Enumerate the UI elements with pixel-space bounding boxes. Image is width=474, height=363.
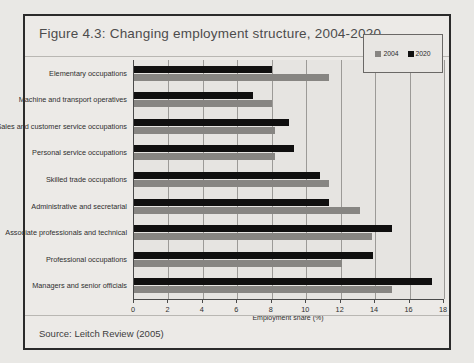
bar-2020 bbox=[134, 66, 272, 73]
x-tick-label: 6 bbox=[234, 305, 238, 314]
category-label: Associate professionals and technical bbox=[0, 219, 131, 246]
x-tick bbox=[202, 299, 203, 303]
category-label: Administrative and secretarial bbox=[0, 193, 131, 220]
category-label: Skilled trade occupations bbox=[0, 166, 131, 193]
page-background: Figure 4.3: Changing employment structur… bbox=[0, 0, 474, 363]
bar-group bbox=[134, 166, 444, 193]
x-tick-label: 12 bbox=[336, 305, 344, 314]
x-tick bbox=[374, 299, 375, 303]
figure-frame: Figure 4.3: Changing employment structur… bbox=[23, 14, 451, 350]
x-tick bbox=[443, 299, 444, 303]
bar-2004 bbox=[134, 74, 329, 81]
legend-label: 2020 bbox=[416, 50, 431, 57]
category-label: Sales and customer service occupations bbox=[0, 113, 131, 140]
bar-2004 bbox=[134, 207, 360, 214]
plot-area bbox=[133, 60, 444, 299]
bar-group bbox=[134, 246, 444, 273]
x-tick-label: 0 bbox=[131, 305, 135, 314]
legend-label: 2004 bbox=[383, 50, 398, 57]
category-label: Managers and senior officials bbox=[0, 272, 131, 299]
x-tick-label: 18 bbox=[439, 305, 447, 314]
bar-2004 bbox=[134, 260, 342, 267]
bar-2020 bbox=[134, 92, 253, 99]
bar-2020 bbox=[134, 278, 432, 285]
bar-2004 bbox=[134, 127, 275, 134]
bar-group bbox=[134, 113, 444, 140]
x-axis bbox=[133, 299, 443, 300]
figure-title: Figure 4.3: Changing employment structur… bbox=[39, 26, 381, 41]
source-divider bbox=[25, 315, 449, 316]
category-label: Personal service occupations bbox=[0, 140, 131, 167]
x-tick bbox=[133, 299, 134, 303]
category-label: Professional occupations bbox=[0, 246, 131, 273]
x-tick-label: 10 bbox=[301, 305, 309, 314]
bar-2020 bbox=[134, 145, 294, 152]
bar-group bbox=[134, 272, 444, 299]
x-tick bbox=[305, 299, 306, 303]
x-tick-label: 14 bbox=[370, 305, 378, 314]
bar-series-container bbox=[134, 60, 444, 299]
bar-2020 bbox=[134, 199, 329, 206]
bar-2004 bbox=[134, 233, 372, 240]
gridline bbox=[444, 60, 445, 299]
bar-group bbox=[134, 87, 444, 114]
x-tick bbox=[271, 299, 272, 303]
x-tick-label: 16 bbox=[404, 305, 412, 314]
bar-group bbox=[134, 140, 444, 167]
x-tick-label: 2 bbox=[165, 305, 169, 314]
bar-2004 bbox=[134, 286, 392, 293]
bar-2020 bbox=[134, 172, 320, 179]
legend-swatch-icon bbox=[408, 51, 414, 57]
x-tick bbox=[236, 299, 237, 303]
chart-legend: 20042020 bbox=[363, 34, 443, 73]
bar-2020 bbox=[134, 252, 373, 259]
bar-2004 bbox=[134, 100, 272, 107]
bar-2020 bbox=[134, 119, 289, 126]
category-label: Machine and transport operatives bbox=[0, 87, 131, 114]
legend-item: 2020 bbox=[408, 50, 431, 57]
category-label: Elementary occupations bbox=[0, 60, 131, 87]
x-tick bbox=[340, 299, 341, 303]
legend-swatch-icon bbox=[375, 51, 381, 57]
bar-2020 bbox=[134, 225, 392, 232]
bar-2004 bbox=[134, 180, 329, 187]
x-tick bbox=[167, 299, 168, 303]
bar-2004 bbox=[134, 153, 275, 160]
legend-item: 2004 bbox=[375, 50, 398, 57]
figure-source: Source: Leitch Review (2005) bbox=[39, 328, 164, 339]
x-tick-label: 8 bbox=[269, 305, 273, 314]
bar-group bbox=[134, 219, 444, 246]
bar-group bbox=[134, 193, 444, 220]
x-tick bbox=[409, 299, 410, 303]
x-tick-label: 4 bbox=[200, 305, 204, 314]
